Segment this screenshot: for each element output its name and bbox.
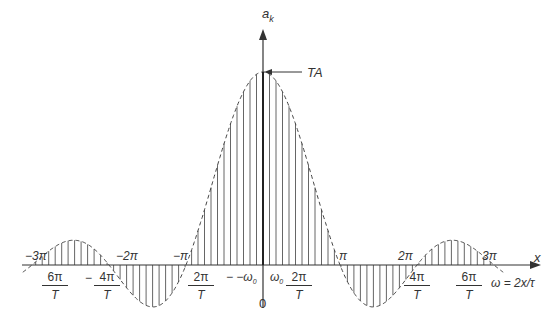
sinc-stem-diagram: ak TA x ω = 2x/τ −3π −2π −π π 2π 3π 6π T… <box>0 0 555 318</box>
y-axis-arrow-icon <box>259 29 267 40</box>
omega0-pos-label: ω0 <box>270 271 283 285</box>
omega-tick-neg-4pi-T: 4π T <box>94 271 120 301</box>
tick-label-2pi: 2π <box>398 250 413 262</box>
tick-label-neg-pi: −π <box>173 250 188 262</box>
omega-tick-6pi-T: 6π T <box>456 271 482 301</box>
tick-label-pi: π <box>339 250 347 262</box>
origin-label: 0 <box>259 297 266 310</box>
omega-relation-label: ω = 2x/τ <box>491 277 535 289</box>
omega-tick-neg-6pi-T: 6π T <box>42 271 68 301</box>
omega0-neg-label: − −ω0 <box>226 271 257 285</box>
omega-tick-4pi-T: 4π T <box>404 271 430 301</box>
tick-label-neg-2pi: −2π <box>116 250 138 262</box>
tick-label-neg-3pi: −3π <box>25 250 47 262</box>
omega-tick-neg-2pi-T: 2π T <box>188 271 214 301</box>
omega-tick-2pi-T: 2π T <box>286 271 312 301</box>
x-axis-label: x <box>534 251 541 264</box>
peak-label: TA <box>307 66 323 79</box>
tick-label-3pi: 3π <box>482 250 497 262</box>
omega-tick-neg-sign: − <box>85 272 92 284</box>
y-axis-label: ak <box>262 7 274 24</box>
y-axis-label-sub: k <box>269 14 274 24</box>
ta-pointer-arrow-icon <box>264 69 272 75</box>
